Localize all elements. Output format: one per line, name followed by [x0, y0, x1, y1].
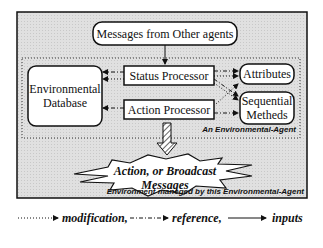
db-label-2: Database — [43, 96, 87, 110]
status-processor-label: Status Processor — [130, 69, 209, 83]
seq-label-2: Metheds — [246, 108, 288, 122]
db-label-1: Environmental — [29, 82, 101, 96]
attributes-label: Attributes — [243, 67, 291, 81]
burst-label-1: Action, or Broadcast — [113, 164, 217, 178]
messages-label: Messages from Other agents — [97, 27, 234, 41]
legend-reference: reference, — [172, 211, 222, 225]
legend-modification: modification, — [62, 211, 128, 225]
legend-inputs: inputs — [272, 211, 303, 225]
action-processor-label: Action Processor — [128, 103, 210, 117]
environmental-agent-diagram: Messages from Other agents Environmental… — [0, 0, 323, 248]
agent-label: An Environmental-Agent — [201, 125, 296, 134]
seq-label-1: Sequential — [242, 94, 293, 108]
environment-label: Environment maneged by this Environmenta… — [107, 187, 305, 196]
